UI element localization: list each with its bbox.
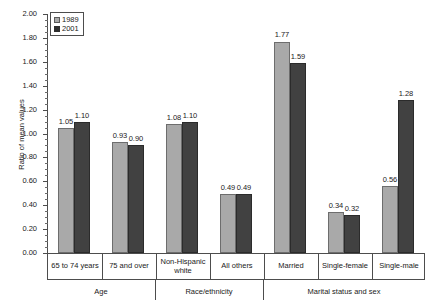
legend-item-2001: 2001: [54, 24, 79, 33]
y-tick-minor: [45, 92, 48, 93]
legend-label-1989: 1989: [62, 16, 79, 24]
bar-2001-3: [236, 194, 252, 253]
y-tick-major: [43, 38, 48, 39]
y-tick-label: 0.00: [22, 249, 37, 257]
y-tick-minor: [45, 104, 48, 105]
y-tick-minor: [45, 175, 48, 176]
y-tick-major: [43, 110, 48, 111]
legend-label-2001: 2001: [62, 25, 79, 33]
legend-item-1989: 1989: [54, 15, 79, 24]
bar-1989-1: [112, 142, 128, 253]
y-tick-major: [43, 14, 48, 15]
bar-1989-3: [220, 194, 236, 253]
bar-value-label: 0.90: [125, 135, 147, 143]
bar-2001-4: [290, 63, 306, 253]
y-tick-minor: [45, 217, 48, 218]
group-label-band: AgeRace/ethnicityMarital status and sex: [47, 280, 425, 302]
plot-area: 0.000.200.400.600.801.001.201.401.601.80…: [47, 14, 425, 253]
y-tick-minor: [45, 26, 48, 27]
group-label: Marital status and sex: [263, 284, 425, 298]
y-tick-major: [43, 157, 48, 158]
y-tick-minor: [45, 74, 48, 75]
bar-value-label: 1.10: [179, 112, 201, 120]
y-tick-minor: [45, 151, 48, 152]
y-tick-label: 0.40: [22, 201, 37, 209]
y-tick-minor: [45, 68, 48, 69]
y-tick-minor: [45, 122, 48, 123]
category-separator: [210, 254, 211, 279]
y-tick-minor: [45, 20, 48, 21]
y-tick-label: 0.80: [22, 154, 37, 162]
y-tick-label: 0.60: [22, 178, 37, 186]
y-tick-label: 1.20: [22, 106, 37, 114]
bar-value-label: 0.49: [233, 184, 255, 192]
y-tick-minor: [45, 50, 48, 51]
y-tick-minor: [45, 163, 48, 164]
legend-swatch-1989: [54, 17, 60, 23]
bar-value-label: 1.59: [287, 53, 309, 61]
group-separator: [263, 280, 264, 300]
category-label-band: 65 to 74 years75 and overNon-Hispanic wh…: [47, 254, 425, 280]
y-tick-minor: [45, 187, 48, 188]
y-tick-label: 1.80: [22, 34, 37, 42]
category-label: Single-male: [372, 254, 426, 279]
bar-1989-0: [58, 128, 74, 253]
y-tick-major: [43, 86, 48, 87]
y-tick-minor: [45, 193, 48, 194]
bar-2001-5: [344, 215, 360, 253]
bar-2001-0: [74, 122, 90, 253]
category-separator: [102, 254, 103, 279]
category-separator: [156, 254, 157, 279]
y-tick-minor: [45, 145, 48, 146]
bar-value-label: 1.77: [271, 31, 293, 39]
y-tick-major: [43, 181, 48, 182]
y-tick-major: [43, 229, 48, 230]
bar-1989-2: [166, 124, 182, 253]
category-separator: [318, 254, 319, 279]
bar-chart: Ratio of mean values 0.000.200.400.600.8…: [0, 0, 435, 304]
y-tick-label: 1.40: [22, 82, 37, 90]
group-label: Age: [47, 284, 155, 298]
bar-value-label: 1.10: [71, 112, 93, 120]
y-tick-label: 0.20: [22, 225, 37, 233]
bar-1989-6: [382, 186, 398, 253]
category-label: Non-Hispanic white: [156, 254, 210, 279]
category-label: 75 and over: [102, 254, 156, 279]
y-tick-minor: [45, 241, 48, 242]
y-tick-minor: [45, 199, 48, 200]
y-tick-minor: [45, 128, 48, 129]
y-tick-minor: [45, 223, 48, 224]
y-tick-minor: [45, 211, 48, 212]
bar-2001-6: [398, 100, 414, 253]
y-tick-minor: [45, 247, 48, 248]
y-tick-minor: [45, 80, 48, 81]
y-tick-minor: [45, 56, 48, 57]
category-label: All others: [210, 254, 264, 279]
y-tick-minor: [45, 116, 48, 117]
y-tick-label: 2.00: [22, 10, 37, 18]
y-tick-label: 1.60: [22, 58, 37, 66]
bar-1989-5: [328, 212, 344, 253]
y-tick-minor: [45, 98, 48, 99]
group-separator: [155, 280, 156, 300]
bar-2001-1: [128, 145, 144, 253]
y-tick-minor: [45, 139, 48, 140]
bar-1989-4: [274, 42, 290, 254]
y-tick-major: [43, 62, 48, 63]
legend-swatch-2001: [54, 26, 60, 32]
category-label: 65 to 74 years: [48, 254, 102, 279]
y-tick-major: [43, 134, 48, 135]
y-tick-minor: [45, 235, 48, 236]
group-label: Race/ethnicity: [155, 284, 263, 298]
y-tick-minor: [45, 32, 48, 33]
category-separator: [372, 254, 373, 279]
category-label: Single-female: [318, 254, 372, 279]
category-separator: [264, 254, 265, 279]
y-tick-major: [43, 205, 48, 206]
bar-value-label: 1.28: [395, 90, 417, 98]
bar-value-label: 0.32: [341, 205, 363, 213]
y-tick-minor: [45, 169, 48, 170]
y-tick-label: 1.00: [22, 130, 37, 138]
y-tick-minor: [45, 44, 48, 45]
bar-2001-2: [182, 122, 198, 253]
